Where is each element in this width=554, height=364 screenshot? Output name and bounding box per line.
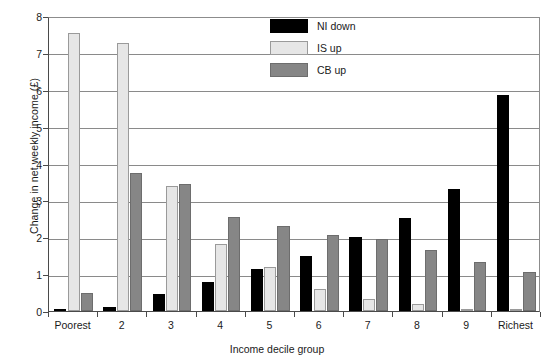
x-axis-tick-label: 6 [294,319,343,331]
legend-item[interactable]: NI down [270,16,390,36]
bar [68,33,80,311]
legend-swatch-icon [270,41,308,55]
x-axis-tick-label: 3 [146,319,195,331]
bar [264,267,276,311]
x-axis-tick-mark [343,312,344,317]
bar [215,244,227,311]
y-axis-tick-label: 4 [20,160,42,171]
x-axis-tick-label: 8 [392,319,441,331]
x-axis-tick-label: 7 [343,319,392,331]
legend-item[interactable]: IS up [270,38,390,58]
bar-group [443,18,492,311]
bar [81,293,93,311]
bar [327,235,339,311]
x-axis-tick-mark [294,312,295,317]
bar [166,186,178,311]
x-axis-tick-label: Poorest [48,319,97,331]
legend-label: NI down [317,20,356,32]
x-axis-tick-mark [48,312,49,317]
y-axis-tick-label: 1 [20,270,42,281]
bar [202,282,214,311]
bar [376,239,388,311]
bar-group [492,18,541,311]
bar [228,217,240,311]
x-axis-tick-label: 2 [97,319,146,331]
bar [510,309,522,311]
y-axis-tick-label: 3 [20,196,42,207]
legend-label: CB up [317,64,346,76]
x-axis-tick-mark [196,312,197,317]
bar [103,307,115,311]
bar-group [197,18,246,311]
bar [117,43,129,311]
x-axis-tick-mark [97,312,98,317]
bar [448,189,460,311]
bar-group [147,18,196,311]
x-axis-tick-label: 9 [442,319,491,331]
bar [153,294,165,311]
bar [300,256,312,311]
bar [363,299,375,311]
y-axis-tick-label: 7 [20,49,42,60]
bar [179,184,191,311]
chart-root: Change in net weekly income (£) 01234567… [0,0,554,364]
x-axis-tick-mark [245,312,246,317]
x-axis-tick-mark [392,312,393,317]
legend-swatch-icon [270,19,308,33]
y-axis-tick-label: 0 [20,307,42,318]
bar-group [393,18,442,311]
bar [461,309,473,311]
x-axis-tick-mark [442,312,443,317]
bar [54,309,66,311]
bar-group [98,18,147,311]
x-axis-tick-label: 5 [245,319,294,331]
y-axis-tick-label: 2 [20,233,42,244]
bar-group [49,18,98,311]
bar [497,95,509,311]
bar [399,218,411,311]
bar [130,173,142,311]
legend-label: IS up [317,42,342,54]
bar [277,226,289,311]
legend-swatch-icon [270,63,308,77]
bar [412,304,424,311]
x-axis-tick-mark [540,312,541,317]
bar [425,250,437,311]
y-axis-tick-label: 6 [20,86,42,97]
bar [474,262,486,311]
x-axis-tick-mark [146,312,147,317]
bar [314,289,326,311]
x-axis-title: Income decile group [0,343,554,355]
chart-legend: NI downIS upCB up [270,16,390,82]
legend-item[interactable]: CB up [270,60,390,80]
y-axis-tick-label: 8 [20,12,42,23]
x-axis-tick-label: Richest [491,319,540,331]
bar [251,269,263,311]
x-axis-tick-mark [491,312,492,317]
bar [523,272,535,311]
x-axis-tick-label: 4 [196,319,245,331]
y-axis-tick-label: 5 [20,123,42,134]
bar [349,237,361,311]
